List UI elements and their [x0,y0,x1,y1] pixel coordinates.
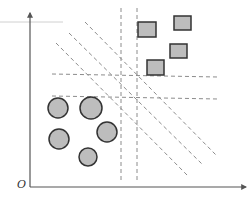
square-point [174,16,191,30]
circle-point [79,148,97,166]
square-point [138,22,156,37]
separating-line-horizontal [52,74,218,77]
circle-point [97,122,117,142]
origin-label: O [17,178,26,191]
circle-point [49,129,69,149]
separating-line-diagonal [56,43,188,176]
circle-point [80,97,102,119]
diagram-canvas [0,0,249,203]
square-point [170,44,187,58]
square-point [147,60,164,75]
circle-point [48,98,68,118]
separating-lines [52,8,218,180]
data-points [48,16,191,166]
